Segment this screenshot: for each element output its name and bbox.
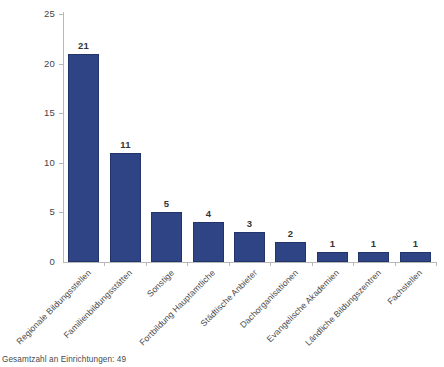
- chart-footnote: Gesamtzahl an Einrichtungen: 49: [2, 355, 126, 364]
- x-axis-category-labels: Regionale BildungsstellenFamilienbildung…: [0, 0, 444, 367]
- x-axis-category-label: Familienbildungsstätten: [0, 268, 134, 367]
- x-axis-category-label: Fortbildung Hauptamtliche: [0, 268, 217, 367]
- bar-chart: 0510152025 21115432111 Regionale Bildung…: [0, 0, 444, 367]
